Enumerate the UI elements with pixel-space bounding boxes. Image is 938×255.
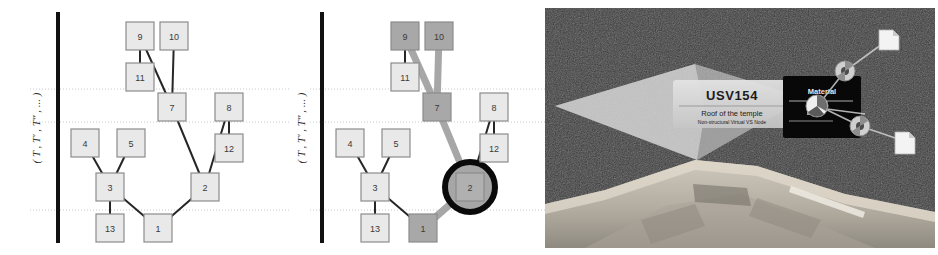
tree-node-3-h[interactable]: 3 [361, 173, 389, 201]
node-disc-upper-icon[interactable] [835, 61, 855, 81]
tree-node-2-h-label: 2 [467, 183, 472, 193]
tree-node-5-h[interactable]: 5 [382, 129, 410, 157]
tree-node-4-label: 4 [82, 139, 87, 149]
panel-tree-highlighted: ( T , T′ , T″ , ... ) [290, 0, 545, 255]
axis-label: ( T , T′ , T″ , ... ) [30, 92, 43, 163]
axis-bar [56, 12, 60, 243]
tree-node-8-label: 8 [226, 103, 231, 113]
tree-node-13-h-label: 13 [370, 224, 380, 234]
tree-node-9-label: 9 [137, 32, 142, 42]
tree-node-3-label: 3 [107, 183, 112, 193]
tree-node-7-h[interactable]: 7 [423, 93, 451, 121]
node-disc-lower-icon[interactable] [850, 116, 870, 136]
tree-node-2-h[interactable]: 2 [456, 173, 484, 201]
tree-node-8[interactable]: 8 [215, 93, 243, 121]
tree-node-12-h[interactable]: 12 [480, 134, 508, 162]
tree-node-13-label: 13 [105, 224, 115, 234]
tree-nodes: 1 2 3 4 5 [71, 22, 243, 242]
tree-node-5-label: 5 [128, 139, 133, 149]
tree-node-11-h-label: 11 [400, 73, 409, 83]
ar-info-card-subtitle: Roof of the temple [701, 109, 762, 118]
axis-label-group-highlighted: ( T , T′ , T″ , ... ) [295, 92, 308, 163]
tree-node-1-label: 1 [155, 224, 160, 234]
ar-viewport: USV154 Roof of the temple Non-structural… [545, 8, 935, 248]
tree-node-9-h[interactable]: 9 [391, 22, 419, 50]
tree-node-9-h-label: 9 [402, 32, 407, 42]
ar-info-card-meta: Non-structural Virtual VS Node [698, 119, 766, 125]
tree-node-1-h[interactable]: 1 [409, 214, 437, 242]
tree-node-10-h-label: 10 [434, 32, 444, 42]
figure-root: ( T , T′ , T″ , ... ) 1 [0, 0, 938, 255]
axis-label-group: ( T , T′ , T″ , ... ) [30, 92, 43, 163]
tree-node-13[interactable]: 13 [96, 214, 124, 242]
panel-ar-scene: USV154 Roof of the temple Non-structural… [545, 0, 938, 255]
panel-tree-baseline: ( T , T′ , T″ , ... ) 1 [0, 0, 290, 255]
tree-node-12-label: 12 [224, 144, 234, 154]
tree-node-7-label: 7 [169, 103, 174, 113]
tree-node-7[interactable]: 7 [158, 93, 186, 121]
doc-icon-upper[interactable] [879, 30, 899, 50]
tree-node-2-label: 2 [202, 183, 207, 193]
tree-node-4-h-label: 4 [347, 139, 352, 149]
tree-node-1[interactable]: 1 [144, 214, 172, 242]
tree-node-3-h-label: 3 [372, 183, 377, 193]
tree-node-10[interactable]: 10 [160, 22, 188, 50]
tree-node-2[interactable]: 2 [191, 173, 219, 201]
doc-icon-lower[interactable] [895, 132, 915, 154]
tree-node-13-h[interactable]: 13 [361, 214, 389, 242]
tree-node-8-h[interactable]: 8 [480, 93, 508, 121]
tree-node-12[interactable]: 12 [215, 134, 243, 162]
tree-diagram-highlighted: ( T , T′ , T″ , ... ) [290, 0, 545, 255]
tree-node-11-h[interactable]: 11 [391, 63, 419, 91]
axis-bar-highlighted [320, 12, 324, 243]
tree-node-11[interactable]: 11 [126, 63, 154, 91]
ar-property-panel-rule-2 [789, 120, 833, 122]
ar-info-card[interactable]: USV154 Roof of the temple Non-structural… [673, 80, 791, 128]
tree-node-7-h-label: 7 [434, 103, 439, 113]
tree-node-10-h[interactable]: 10 [425, 22, 453, 50]
tree-node-5[interactable]: 5 [117, 129, 145, 157]
tree-diagram-baseline: ( T , T′ , T″ , ... ) 1 [0, 0, 290, 255]
tree-node-1-h-label: 1 [420, 224, 425, 234]
tree-node-9[interactable]: 9 [126, 22, 154, 50]
tree-node-11-label: 11 [135, 73, 144, 83]
axis-label-highlighted: ( T , T′ , T″ , ... ) [295, 92, 308, 163]
tree-node-12-h-label: 12 [489, 144, 499, 154]
tree-node-5-h-label: 5 [393, 139, 398, 149]
tree-node-10-label: 10 [169, 32, 179, 42]
tree-node-4-h[interactable]: 4 [336, 129, 364, 157]
ar-info-card-title: USV154 [706, 88, 758, 103]
ar-scene-svg: USV154 Roof of the temple Non-structural… [545, 8, 935, 248]
tree-node-3[interactable]: 3 [96, 173, 124, 201]
node-disc-center-icon[interactable] [806, 95, 828, 117]
tree-node-8-h-label: 8 [491, 103, 496, 113]
tree-node-4[interactable]: 4 [71, 129, 99, 157]
